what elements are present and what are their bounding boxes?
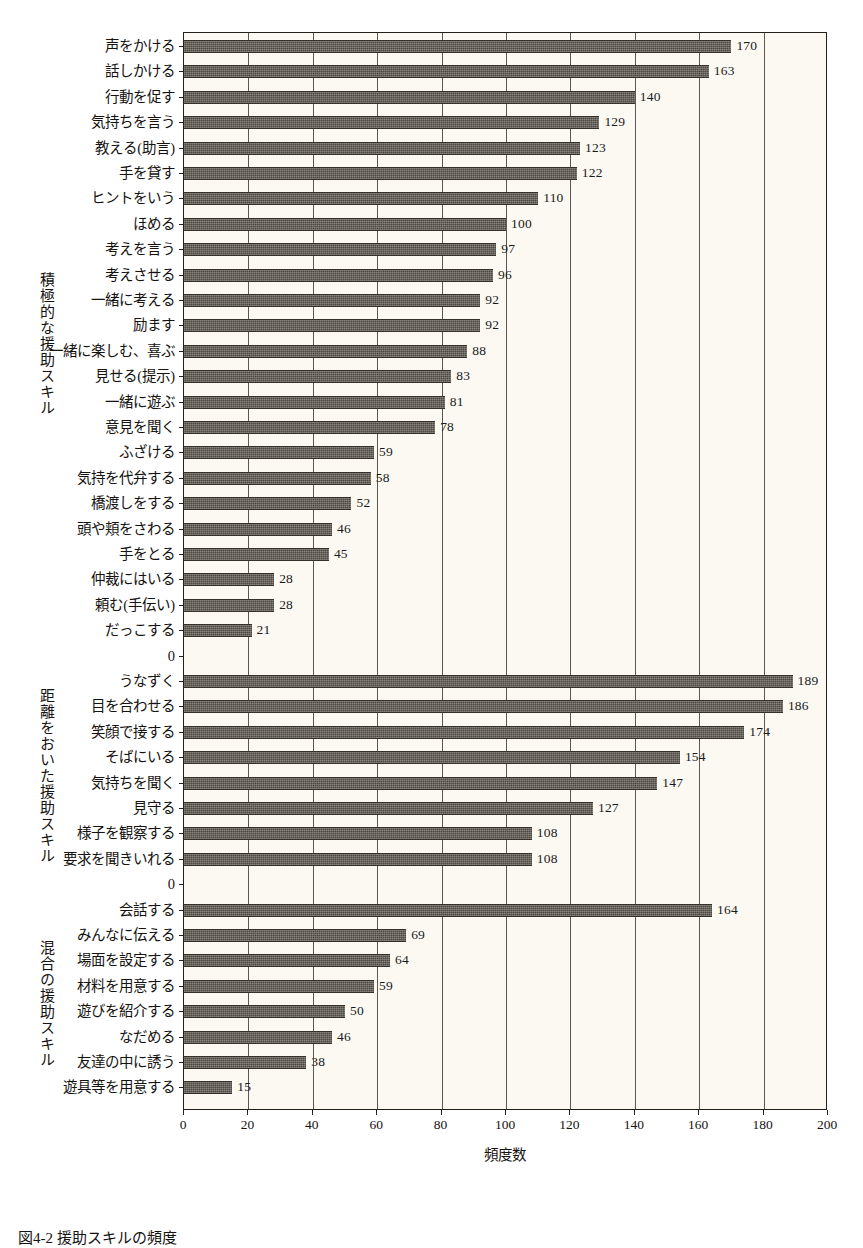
bar (184, 396, 445, 409)
bar (184, 802, 593, 815)
category-label: みんなに伝える (77, 926, 175, 944)
category-label: ヒントをいう (91, 189, 175, 207)
bar-value-label: 15 (237, 1078, 251, 1096)
bar-value-label: 122 (582, 164, 603, 182)
bar (184, 167, 577, 180)
bar (184, 624, 252, 637)
bar-value-label: 154 (685, 748, 706, 766)
bar-value-label: 170 (736, 37, 757, 55)
category-label: 励ます (133, 316, 175, 334)
category-label-column: 声をかける話しかける行動を促す気持ちを言う教える(助言)手を貸すヒントをいうほめ… (0, 32, 183, 1125)
bar (184, 192, 538, 205)
x-axis-tick-200 (827, 1110, 828, 1115)
x-axis-tick-20 (247, 1110, 248, 1115)
bar (184, 700, 783, 713)
bar-value-label: 81 (450, 393, 464, 411)
bar-value-label: 147 (662, 774, 683, 792)
bar (184, 548, 329, 561)
category-label: 要求を聞きいれる (63, 850, 175, 868)
bar-value-label: 21 (257, 621, 271, 639)
bar (184, 675, 793, 688)
category-label: 手をとる (119, 545, 175, 563)
group-separator-label: 0 (168, 875, 175, 893)
category-label: 気持を代弁する (77, 469, 175, 487)
bar (184, 751, 680, 764)
category-label: 頭や頬をさわる (77, 520, 175, 538)
category-label: 声をかける (105, 37, 175, 55)
bar (184, 497, 351, 510)
category-label: 考えさせる (105, 266, 175, 284)
bar-value-label: 92 (485, 316, 499, 334)
bar-value-label: 83 (456, 367, 470, 385)
bar-value-label: 110 (543, 189, 563, 207)
category-label: 意見を聞く (105, 418, 175, 436)
bar (184, 1031, 332, 1044)
bar (184, 726, 744, 739)
x-axis-tick-label-40: 40 (305, 1116, 319, 1134)
y-axis-tick (179, 884, 184, 885)
category-label: なだめる (119, 1028, 175, 1046)
x-axis-tick-180 (763, 1110, 764, 1115)
x-axis-title: 頻度数 (183, 1143, 827, 1164)
category-label: 気持ちを聞く (91, 774, 175, 792)
bar (184, 345, 467, 358)
category-label: 一緒に楽しむ、喜ぶ (49, 342, 175, 360)
category-label: 会話する (119, 901, 175, 919)
x-axis-tick-label-180: 180 (752, 1116, 772, 1134)
category-label: 遊びを紹介する (77, 1002, 175, 1020)
bar (184, 421, 435, 434)
x-axis-tick-label-80: 80 (434, 1116, 448, 1134)
bar-value-label: 28 (279, 596, 293, 614)
bar (184, 1081, 232, 1094)
category-label: 様子を観察する (77, 824, 175, 842)
figure-caption: 図4-2 援助スキルの頻度 (18, 1228, 177, 1248)
category-label: 場面を設定する (77, 951, 175, 969)
bar-value-label: 140 (640, 88, 661, 106)
bar (184, 1005, 345, 1018)
bar-value-label: 59 (379, 977, 393, 995)
category-label: 話しかける (105, 62, 175, 80)
bar (184, 91, 635, 104)
bar-value-label: 96 (498, 266, 512, 284)
category-label: そばにいる (105, 748, 175, 766)
x-axis-tick-100 (505, 1110, 506, 1115)
bar-value-label: 163 (714, 62, 735, 80)
bar-value-label: 38 (311, 1053, 325, 1071)
category-label: 気持ちを言う (91, 113, 175, 131)
bar-value-label: 100 (511, 215, 532, 233)
bar (184, 954, 390, 967)
bar-value-label: 97 (501, 240, 515, 258)
bar (184, 370, 451, 383)
bar-value-label: 129 (604, 113, 625, 131)
bar-value-label: 174 (749, 723, 770, 741)
bar (184, 599, 274, 612)
x-axis-tick-40 (312, 1110, 313, 1115)
bar (184, 1056, 306, 1069)
bar (184, 523, 332, 536)
bar-value-label: 50 (350, 1002, 364, 1020)
category-label: ふざける (119, 443, 175, 461)
bar (184, 573, 274, 586)
bar (184, 980, 374, 993)
y-axis-tick (179, 656, 184, 657)
x-axis-tick-140 (634, 1110, 635, 1115)
x-axis-tick-60 (376, 1110, 377, 1115)
plot-area: 1701631401291231221101009796929288838178… (183, 32, 827, 1110)
bar-value-label: 69 (411, 926, 425, 944)
bar-value-label: 189 (798, 672, 819, 690)
bar-value-label: 164 (717, 901, 738, 919)
bar (184, 853, 532, 866)
bar-value-label: 64 (395, 951, 409, 969)
bar-value-label: 88 (472, 342, 486, 360)
bar (184, 929, 406, 942)
category-label: 目を合わせる (91, 697, 175, 715)
category-label: 行動を促す (105, 88, 175, 106)
bar (184, 243, 496, 256)
x-axis-tick-0 (183, 1110, 184, 1115)
bar-value-label: 45 (334, 545, 348, 563)
bar (184, 472, 371, 485)
category-label: 考えを言う (105, 240, 175, 258)
bar (184, 294, 480, 307)
x-axis-tick-label-20: 20 (241, 1116, 255, 1134)
group-separator-label: 0 (168, 647, 175, 665)
